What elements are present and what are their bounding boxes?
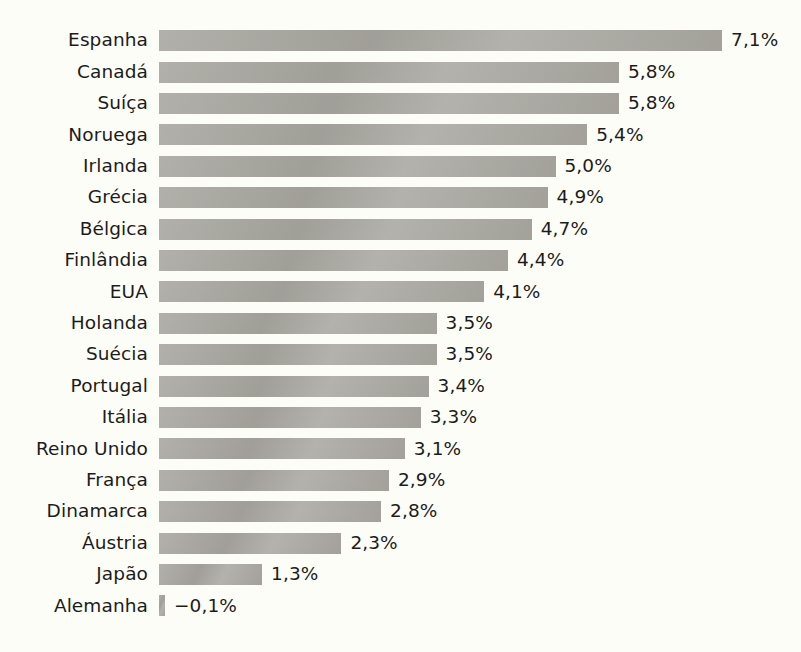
bar-row: Suíça5,8% — [0, 88, 801, 119]
bar-row: Alemanha−0,1% — [0, 590, 801, 621]
category-label: Irlanda — [0, 157, 148, 176]
category-label: Áustria — [0, 534, 148, 553]
bar-track: 4,4% — [159, 245, 564, 276]
bar — [159, 376, 429, 397]
category-label: Canadá — [0, 63, 148, 82]
bar-track: 2,3% — [159, 527, 398, 558]
category-label: Alemanha — [0, 597, 148, 616]
category-label: EUA — [0, 283, 148, 302]
value-label: 3,3% — [430, 408, 477, 427]
value-label: 5,4% — [596, 126, 643, 145]
value-label: 5,8% — [628, 63, 675, 82]
value-label: 2,9% — [398, 471, 445, 490]
value-label: 3,5% — [446, 345, 493, 364]
bar — [159, 250, 508, 271]
value-label: 3,4% — [438, 377, 485, 396]
bar-track: 4,1% — [159, 276, 541, 307]
bar — [159, 124, 587, 145]
bar-track: 1,3% — [159, 559, 318, 590]
bar — [159, 564, 262, 585]
bar-track: 4,7% — [159, 213, 588, 244]
bar-chart: Espanha7,1%Canadá5,8%Suíça5,8%Noruega5,4… — [0, 0, 801, 652]
value-label: 3,1% — [414, 440, 461, 459]
category-label: Dinamarca — [0, 502, 148, 521]
bar-row: Bélgica4,7% — [0, 213, 801, 244]
bar — [159, 62, 619, 83]
bar-track: 5,8% — [159, 56, 675, 87]
bar-track: 3,1% — [159, 433, 461, 464]
category-label: Finlândia — [0, 251, 148, 270]
category-label: Bélgica — [0, 220, 148, 239]
bar-row: EUA4,1% — [0, 276, 801, 307]
value-label: 5,8% — [628, 94, 675, 113]
bar — [159, 93, 619, 114]
bar — [159, 313, 437, 334]
bar-row: Canadá5,8% — [0, 56, 801, 87]
category-label: França — [0, 471, 148, 490]
bar-track: 4,9% — [159, 182, 604, 213]
bar-track: 3,5% — [159, 308, 493, 339]
category-label: Suécia — [0, 345, 148, 364]
bar-track: −0,1% — [159, 590, 237, 621]
bar-row: Espanha7,1% — [0, 25, 801, 56]
category-label: Japão — [0, 565, 148, 584]
bar-row: Portugal3,4% — [0, 370, 801, 401]
value-label: 5,0% — [565, 157, 612, 176]
category-label: Noruega — [0, 126, 148, 145]
value-label: 4,7% — [541, 220, 588, 239]
bar-track: 5,8% — [159, 88, 675, 119]
bar-row: Dinamarca2,8% — [0, 496, 801, 527]
value-label: 2,3% — [350, 534, 397, 553]
bar-track: 3,5% — [159, 339, 493, 370]
bar — [159, 533, 341, 554]
bar-row: Reino Unido3,1% — [0, 433, 801, 464]
value-label: 4,9% — [557, 188, 604, 207]
bar — [159, 470, 389, 491]
bar — [159, 595, 165, 616]
bar-track: 2,9% — [159, 465, 445, 496]
category-label: Itália — [0, 408, 148, 427]
bar — [159, 344, 437, 365]
value-label: 1,3% — [271, 565, 318, 584]
bar-row: Itália3,3% — [0, 402, 801, 433]
bar — [159, 219, 532, 240]
category-label: Espanha — [0, 31, 148, 50]
bar — [159, 187, 548, 208]
value-label: 4,1% — [493, 283, 540, 302]
bar-row: Grécia4,9% — [0, 182, 801, 213]
bar — [159, 501, 381, 522]
bar-row: Irlanda5,0% — [0, 151, 801, 182]
bar — [159, 438, 405, 459]
category-label: Suíça — [0, 94, 148, 113]
category-label: Holanda — [0, 314, 148, 333]
bar-track: 5,0% — [159, 151, 612, 182]
category-label: Reino Unido — [0, 440, 148, 459]
bar-track: 3,3% — [159, 402, 477, 433]
bar-row: Holanda3,5% — [0, 308, 801, 339]
value-label: 7,1% — [731, 31, 778, 50]
bar-row: Noruega5,4% — [0, 119, 801, 150]
bar-row: Finlândia4,4% — [0, 245, 801, 276]
bar-track: 5,4% — [159, 119, 644, 150]
bar-row: Suécia3,5% — [0, 339, 801, 370]
value-label: 4,4% — [517, 251, 564, 270]
bar-row: Japão1,3% — [0, 559, 801, 590]
bar-row: Áustria2,3% — [0, 527, 801, 558]
bar — [159, 156, 556, 177]
bar-row: França2,9% — [0, 465, 801, 496]
bar — [159, 281, 484, 302]
bar-track: 2,8% — [159, 496, 437, 527]
bar — [159, 407, 421, 428]
bar-track: 3,4% — [159, 370, 485, 401]
value-label: 3,5% — [446, 314, 493, 333]
category-label: Portugal — [0, 377, 148, 396]
bar — [159, 30, 722, 51]
bar-track: 7,1% — [159, 25, 778, 56]
category-label: Grécia — [0, 188, 148, 207]
value-label: −0,1% — [174, 597, 237, 616]
value-label: 2,8% — [390, 502, 437, 521]
